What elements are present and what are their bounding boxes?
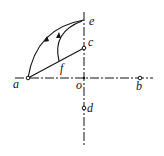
geometry-diagram: a o b c d e f (0, 0, 164, 156)
point-o (83, 77, 85, 79)
label-d: d (87, 101, 94, 115)
arc-a-e (28, 20, 84, 78)
point-d (82, 106, 86, 110)
point-a (26, 76, 30, 80)
label-e: e (89, 14, 95, 28)
label-o: o (76, 78, 82, 92)
label-a: a (13, 77, 19, 91)
label-b: b (136, 79, 142, 93)
point-c (82, 46, 86, 50)
label-c: c (88, 35, 94, 49)
arc-f-e-arrow-icon (56, 32, 61, 38)
label-f: f (60, 61, 65, 75)
